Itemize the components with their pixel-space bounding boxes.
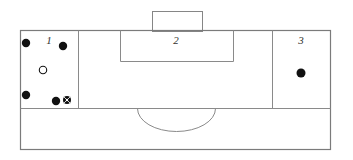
marker-filled-circle <box>22 91 30 99</box>
zone-2-number: 2 <box>173 34 179 46</box>
zone-1-number: 1 <box>46 34 52 46</box>
marker-filled-circle <box>52 97 60 105</box>
marker-crosshair-circle <box>63 96 71 104</box>
schematic-diagram: 1 2 3 <box>0 0 353 160</box>
top-protruding-rectangle <box>153 12 203 32</box>
marker-filled-circle <box>297 69 306 78</box>
diagram-canvas: 1 2 3 <box>0 0 353 160</box>
marker-filled-circle <box>22 39 30 47</box>
marker-hollow-circle <box>39 66 46 73</box>
zone-3-number: 3 <box>297 34 304 46</box>
semicircular-arc <box>138 109 216 132</box>
marker-filled-circle <box>59 42 67 50</box>
